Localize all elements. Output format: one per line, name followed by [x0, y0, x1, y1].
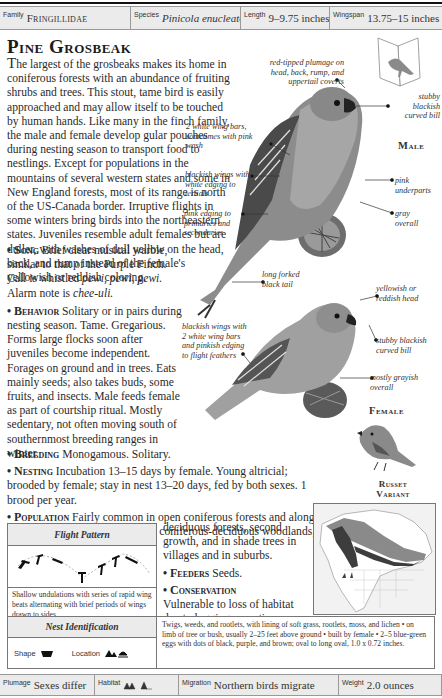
plumage-cell: Plumage Sexes differ [0, 675, 95, 695]
habitat-forest-icon [123, 680, 153, 690]
female-label: Female [369, 405, 404, 416]
nest-shape-label: Shape [14, 649, 36, 658]
migration-cell: Migration Northern birds migrate [179, 675, 339, 695]
variant-label-line2: variant [368, 489, 418, 499]
flight-path-icon [8, 546, 156, 588]
nest-location-label: Location [72, 649, 100, 658]
habitat-label: Habitat [98, 675, 120, 686]
flight-pattern-box: Flight Pattern Shallow undulations with … [7, 523, 157, 618]
annotation-female-bill: stubby blackish curved bill [376, 336, 438, 355]
footer-bar: Plumage Sexes differ Habitat Migration N… [0, 674, 442, 696]
annotation-red-tipped-plumage: red-tipped plumage on head, back, rump, … [258, 58, 344, 87]
nest-identification-box: Nest Identification Shape Location Twigs… [7, 616, 435, 669]
plumage-value: Sexes differ [34, 679, 87, 691]
variant-label-line1: Russet [368, 479, 418, 489]
flight-pattern-title: Flight Pattern [8, 524, 156, 546]
annotation-pink-underparts: pink underparts [395, 176, 439, 195]
weight-label: Weight [342, 675, 364, 686]
migration-label: Migration [182, 675, 211, 686]
flight-pattern-diagram [8, 546, 156, 588]
female-bird-illustration [205, 303, 356, 420]
annotation-pink-edging: pink edging to primaries and secondaries [184, 209, 244, 238]
annotation-male-bill: stubby blackish curved bill [390, 92, 440, 121]
plumage-label: Plumage [3, 675, 31, 686]
annotation-blackish-wings: blackish wings with white edging to tert… [185, 170, 253, 199]
field-guide-icon [378, 38, 420, 86]
weight-value: 2.0 ounces [367, 679, 414, 691]
nest-identification-left: Nest Identification Shape Location [8, 617, 157, 668]
weight-cell: Weight 2.0 ounces [339, 675, 442, 695]
russet-variant-illustration [357, 425, 416, 471]
habitat-cell: Habitat [95, 675, 179, 695]
male-label: Male [398, 140, 424, 151]
nest-description: Twigs, weeds, and rootlets, with lining … [157, 617, 434, 668]
migration-value: Northern birds migrate [214, 679, 315, 691]
nest-shape-location-row: Shape Location [8, 638, 156, 668]
annotation-gray-overall: gray overall [395, 209, 435, 228]
cup-nest-icon [40, 649, 54, 658]
annotation-wing-bars: 2 white wing bars, sometimes with pink w… [186, 122, 258, 151]
annotation-female-head: yellowish or reddish head [376, 284, 438, 303]
tree-shrub-icon [104, 649, 128, 658]
nest-identification-title: Nest Identification [8, 617, 156, 638]
north-america-map [314, 504, 436, 615]
russet-variant-label: Russet variant [368, 479, 418, 499]
range-map [313, 503, 436, 615]
annotation-female-overall: mostly grayish overall [370, 373, 438, 392]
annotation-female-wings: blackish wings with 2 white wing bars an… [182, 322, 250, 360]
annotation-forked-tail: long forked black tail [262, 270, 312, 289]
